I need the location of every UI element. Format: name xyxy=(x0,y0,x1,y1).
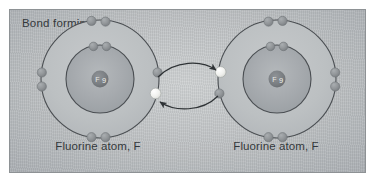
right-nucleus-symbol: F xyxy=(272,76,276,83)
right-nucleus: F 9 xyxy=(269,71,286,88)
electron xyxy=(102,42,111,51)
electron xyxy=(37,68,46,77)
right-fluorine-atom: F 9 xyxy=(215,16,340,142)
electron xyxy=(101,17,110,26)
bond-arrows xyxy=(158,63,218,109)
right-atom-label: Fluorine atom, F xyxy=(196,140,356,152)
left-nucleus-number: 9 xyxy=(102,76,106,85)
bond-forming-figure: Bond forming xyxy=(0,0,376,183)
electron xyxy=(278,16,287,25)
right-bonding-electron xyxy=(215,67,226,78)
right-nucleus-number: 9 xyxy=(279,76,283,85)
left-fluorine-atom: F 9 xyxy=(37,16,162,142)
electron xyxy=(266,42,275,51)
arrow-left-to-right xyxy=(158,63,216,77)
electron xyxy=(331,82,340,91)
left-bonding-electron xyxy=(150,88,161,99)
electron xyxy=(37,82,46,91)
diagram-panel: Bond forming xyxy=(9,9,366,173)
electron xyxy=(87,16,96,25)
electron xyxy=(215,89,224,98)
left-nucleus-symbol: F xyxy=(95,76,99,83)
electron xyxy=(153,68,162,77)
electron xyxy=(279,42,288,51)
electron xyxy=(89,42,98,51)
arrow-right-to-left xyxy=(160,96,218,109)
electron xyxy=(331,68,340,77)
electron xyxy=(264,17,273,26)
left-nucleus: F 9 xyxy=(92,71,109,88)
left-atom-label: Fluorine atom, F xyxy=(18,140,178,152)
